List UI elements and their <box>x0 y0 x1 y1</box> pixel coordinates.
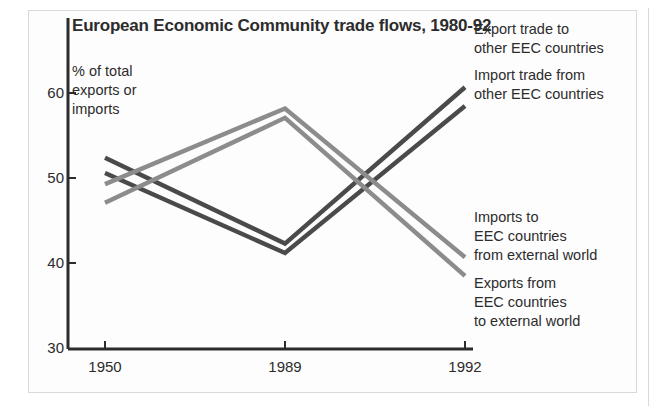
line-chart-plot <box>0 0 656 414</box>
series-polylines <box>105 87 465 276</box>
figure-page: European Economic Community trade flows,… <box>0 0 656 414</box>
